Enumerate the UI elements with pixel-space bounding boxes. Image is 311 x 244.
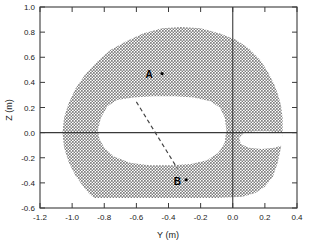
x-tick-label: -0.6 [129, 213, 143, 222]
y-tick-label: 0.6 [24, 53, 36, 62]
point-B-dot [185, 178, 188, 181]
x-tick-label: 0.4 [291, 213, 303, 222]
y-tick-label: 0.0 [24, 129, 36, 138]
y-tick-label: 0.8 [24, 28, 36, 37]
y-axis-title: Z (m) [4, 99, 14, 121]
y-tick-label: 0.4 [24, 78, 36, 87]
stipple-fill [40, 7, 297, 208]
x-tick-label: 0.2 [259, 213, 271, 222]
stippled-region [40, 7, 297, 208]
y-tick-label: -0.2 [21, 154, 35, 163]
x-axis-title: Y (m) [157, 230, 179, 240]
x-tick-label: -1.2 [33, 213, 47, 222]
x-tick-label: 0.0 [227, 213, 239, 222]
y-tick-label: 1.0 [24, 3, 36, 12]
x-tick-label: -0.4 [162, 213, 176, 222]
scatter-region-plot: AB -1.2-1.0-0.8-0.6-0.4-0.20.00.20.4 -0.… [0, 0, 311, 244]
x-tick-label: -1.0 [65, 213, 79, 222]
point-A-label: A [146, 69, 153, 80]
y-tick-label: -0.4 [21, 179, 35, 188]
y-tick-label: -0.6 [21, 204, 35, 213]
point-A-dot [160, 72, 163, 75]
x-tick-label: -0.8 [97, 213, 111, 222]
y-tick-label: 0.2 [24, 104, 36, 113]
x-tick-label: -0.2 [194, 213, 208, 222]
y-axis-tick-labels: -0.6-0.4-0.20.00.20.40.60.81.0 [21, 3, 35, 213]
x-axis-tick-labels: -1.2-1.0-0.8-0.6-0.4-0.20.00.20.4 [33, 213, 303, 222]
point-B-label: B [174, 176, 181, 187]
